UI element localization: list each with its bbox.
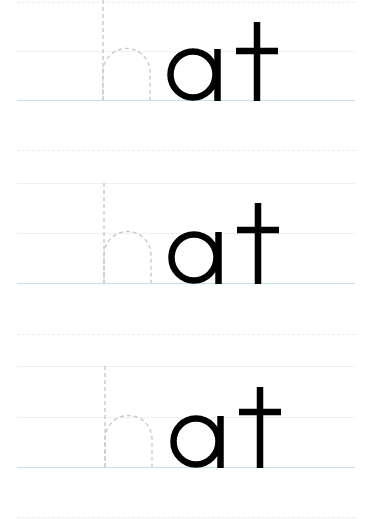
row-glyphs: [0, 0, 370, 519]
trace-letter-h: [105, 366, 152, 467]
handwriting-worksheet: hat hat: [0, 0, 370, 519]
solid-letter-a: [174, 416, 221, 468]
practice-row-3: hat: [0, 0, 370, 519]
solid-letter-t: [239, 387, 281, 468]
